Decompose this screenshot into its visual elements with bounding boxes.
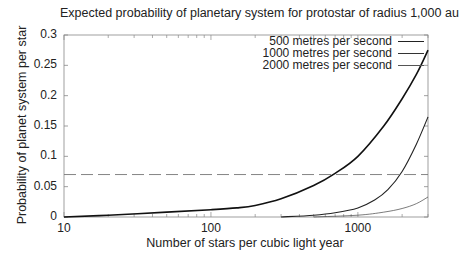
y-tick-label: 0.1 — [40, 148, 57, 162]
legend-label: 2000 metres per second — [263, 59, 392, 71]
x-tick-label: 1000 — [345, 221, 372, 235]
y-tick-label: 0.3 — [40, 27, 57, 41]
series-line-2 — [314, 197, 428, 217]
y-tick-label: 0.25 — [34, 57, 57, 71]
y-tick-label: 0.15 — [34, 118, 57, 132]
legend-swatch — [398, 41, 424, 42]
legend: 500 metres per second 1000 metres per se… — [263, 35, 424, 71]
series-line-1 — [281, 117, 428, 217]
series-line-0 — [64, 50, 428, 217]
y-tick-label: 0.05 — [34, 179, 57, 193]
legend-item-2000: 2000 metres per second — [263, 59, 424, 71]
x-tick-label: 10 — [57, 221, 70, 235]
y-tick-label: 0.2 — [40, 88, 57, 102]
legend-swatch — [398, 53, 424, 54]
legend-swatch — [398, 65, 424, 66]
y-tick-label: 0 — [50, 209, 57, 223]
x-tick-label: 100 — [201, 221, 221, 235]
